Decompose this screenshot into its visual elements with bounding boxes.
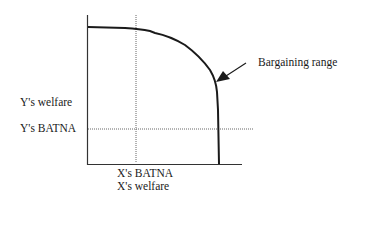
y-batna-label: Y's BATNA <box>20 122 76 135</box>
annotation-arrow-line <box>226 63 246 76</box>
y-axis-label: Y's welfare <box>20 96 72 109</box>
annotation-label: Bargaining range <box>258 56 337 69</box>
arrow-head-icon <box>216 71 230 82</box>
x-batna-label: X's BATNA <box>117 167 173 180</box>
x-axis-label: X's welfare <box>117 180 169 193</box>
welfare-frontier-curve <box>88 27 219 164</box>
